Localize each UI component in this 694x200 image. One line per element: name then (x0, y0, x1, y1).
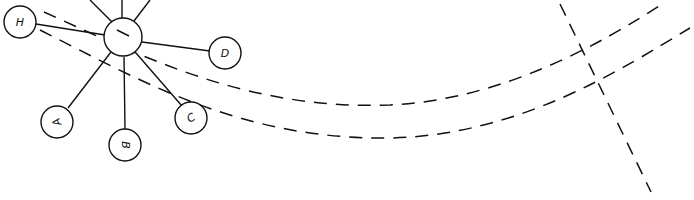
node-D[interactable]: D (209, 37, 241, 69)
edge-hub-C (136, 53, 182, 106)
diagonal-dashed-line (560, 4, 651, 192)
node-B[interactable]: B (109, 129, 141, 161)
edge-hub-up-right (134, 0, 150, 21)
node-H[interactable]: H (4, 6, 36, 38)
node-A[interactable]: A (41, 106, 73, 138)
node-D-label: D (221, 47, 229, 60)
node-B-label: B (119, 141, 132, 149)
node-H-label: H (16, 16, 24, 29)
hub-circle (104, 18, 142, 56)
hub-node[interactable] (104, 18, 142, 56)
node-C[interactable]: C (175, 102, 207, 134)
graph-diagram: H D C B A (0, 0, 694, 200)
edge-hub-up-left (90, 0, 112, 22)
edge-hub-B (124, 57, 125, 129)
edge-hub-A (68, 52, 111, 108)
edge-hub-D (142, 42, 210, 51)
